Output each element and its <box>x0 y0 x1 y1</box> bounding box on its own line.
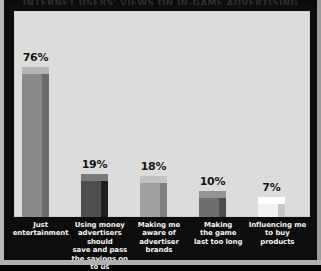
bar-5: 7% <box>258 197 285 217</box>
x-axis-label-band: JustentertainmentUsing moneyadvertisers … <box>5 220 316 260</box>
bar-value-label: 76% <box>23 51 49 64</box>
bar-4: 10% <box>199 191 226 217</box>
plot-area: 76%19%18%10%7% <box>14 11 310 217</box>
bar-side-face <box>219 198 226 217</box>
axis-label-line: Making <box>186 221 251 229</box>
axis-label-line: save and pass <box>67 246 132 254</box>
bar-value-label: 7% <box>262 181 280 194</box>
axis-label-line: advertiser <box>126 238 191 246</box>
axis-label-line: Making me <box>126 221 191 229</box>
axis-label-line: products <box>245 238 310 246</box>
bar-side-face <box>101 181 108 217</box>
axis-label-line: last too long <box>186 238 251 246</box>
bar-side-face <box>278 204 285 217</box>
axis-label-line: advertisers should <box>67 229 132 246</box>
axis-label-line: to buy <box>245 229 310 237</box>
bar-value-label: 19% <box>82 158 108 171</box>
bar-top-face <box>140 176 167 183</box>
bar-value-label: 18% <box>141 160 167 173</box>
bar-front-face <box>199 198 219 217</box>
bar-1: 76% <box>22 67 49 217</box>
axis-label-line: entertainment <box>8 229 73 237</box>
x-axis-label-4: Makingthe gamelast too long <box>186 221 251 246</box>
x-axis-label-1: Justentertainment <box>8 221 73 238</box>
plot-frame: 76%19%18%10%7% <box>5 5 316 220</box>
bar-front-face <box>81 181 101 217</box>
bar-top-face <box>199 191 226 198</box>
bar-side-face <box>160 183 167 217</box>
bar-front-face <box>22 74 42 217</box>
page-edge-left <box>0 0 4 265</box>
bar-side-face <box>42 74 49 217</box>
bar-front-face <box>258 204 278 217</box>
axis-label-line: aware of <box>126 229 191 237</box>
axis-label-line: the game <box>186 229 251 237</box>
bar-front-face <box>140 183 160 217</box>
bar-value-label: 10% <box>200 175 226 188</box>
axis-label-line: Using money <box>67 221 132 229</box>
axis-label-line: Just <box>8 221 73 229</box>
page-edge-right <box>317 0 321 265</box>
bar-2: 19% <box>81 174 108 217</box>
axis-label-line: brands <box>126 246 191 254</box>
bar-top-face <box>22 67 49 74</box>
page-edge-bottom <box>0 260 321 265</box>
axis-label-line: Influencing me <box>245 221 310 229</box>
bar-top-face <box>81 174 108 181</box>
bar-top-face <box>258 197 285 204</box>
x-axis-label-5: Influencing meto buyproducts <box>245 221 310 246</box>
x-axis-label-3: Making meaware ofadvertiserbrands <box>126 221 191 255</box>
bar-3: 18% <box>140 176 167 217</box>
